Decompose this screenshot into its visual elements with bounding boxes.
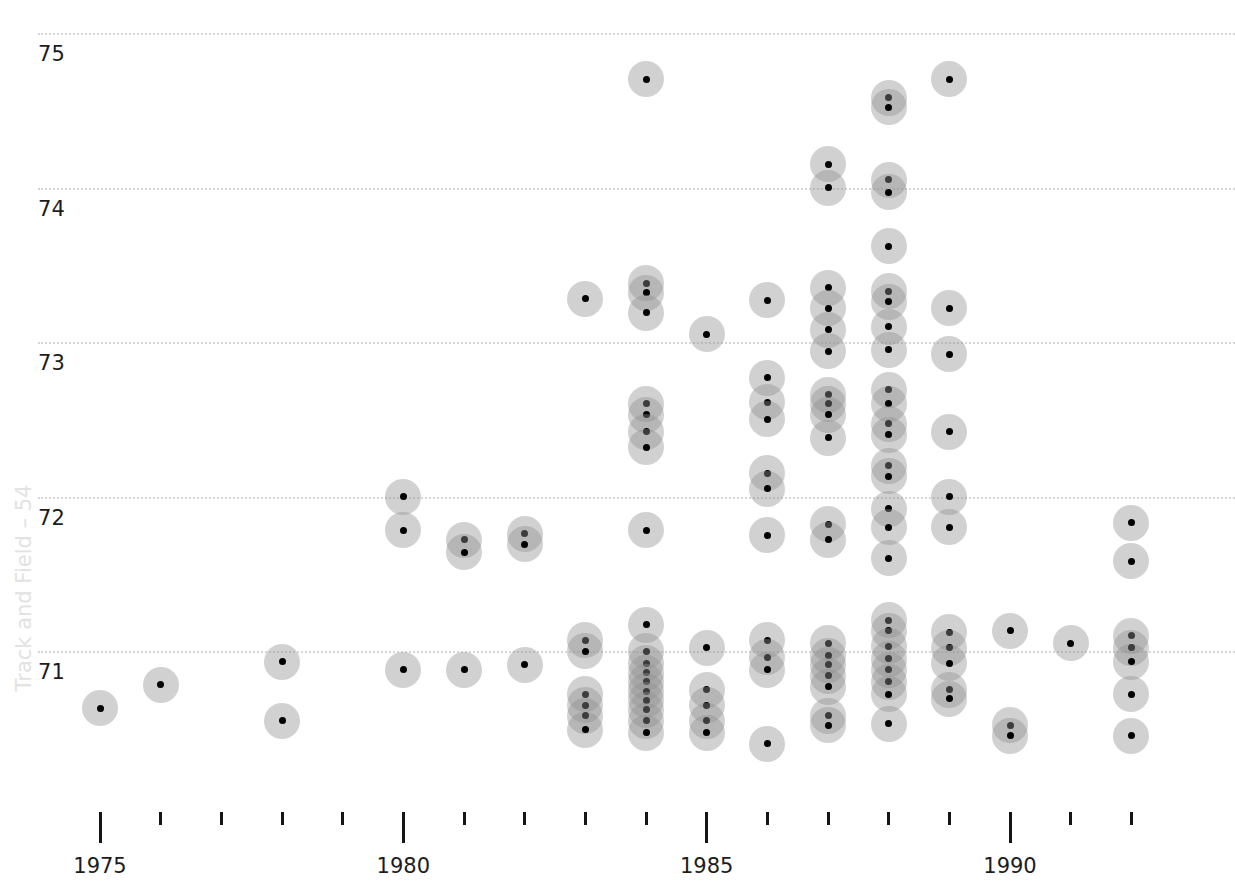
scatter-point-core — [825, 348, 832, 355]
y-axis-tick-label: 72 — [38, 506, 65, 530]
scatter-point — [1113, 676, 1149, 712]
scatter-point — [1113, 505, 1149, 541]
scatter-point — [871, 458, 907, 494]
x-axis-major-tick — [99, 812, 102, 843]
scatter-point — [810, 420, 846, 456]
scatter-point-core — [885, 189, 892, 196]
x-axis-minor-tick — [948, 812, 951, 825]
scatter-point — [1053, 625, 1089, 661]
scatter-point-core — [521, 541, 528, 548]
scatter-point-core — [946, 305, 953, 312]
gridline — [38, 342, 1235, 344]
scatter-point-core — [825, 536, 832, 543]
x-axis-tick-label: 1985 — [680, 854, 733, 878]
scatter-point-core — [885, 555, 892, 562]
scatter-point-core — [764, 666, 771, 673]
scatter-point — [931, 61, 967, 97]
gridline — [38, 497, 1235, 499]
scatter-point-core — [582, 726, 589, 733]
plot-area: 7574737271 — [0, 0, 1235, 893]
x-axis-minor-tick — [341, 812, 344, 825]
scatter-point-core — [946, 524, 953, 531]
scatter-point-core — [885, 720, 892, 727]
scatter-point — [1113, 718, 1149, 754]
scatter-point — [689, 630, 725, 666]
scatter-point — [871, 706, 907, 742]
x-axis-minor-tick — [584, 812, 587, 825]
scatter-point — [931, 681, 967, 717]
scatter-point — [628, 61, 664, 97]
x-axis-major-tick — [705, 812, 708, 843]
x-axis-minor-tick — [220, 812, 223, 825]
scatter-point-core — [703, 331, 710, 338]
scatter-point-core — [885, 104, 892, 111]
x-axis-minor-tick — [766, 812, 769, 825]
scatter-point-core — [521, 661, 528, 668]
scatter-point — [689, 715, 725, 751]
scatter-point-core — [279, 717, 286, 724]
scatter-point-core — [1128, 691, 1135, 698]
scatter-point-core — [643, 729, 650, 736]
scatter-point — [385, 652, 421, 688]
scatter-point-core — [825, 722, 832, 729]
scatter-point — [82, 690, 118, 726]
scatter-point — [749, 282, 785, 318]
scatter-point — [1113, 543, 1149, 579]
scatter-point — [143, 667, 179, 703]
scatter-point-core — [764, 297, 771, 304]
scatter-point-core — [885, 243, 892, 250]
x-axis-minor-tick — [523, 812, 526, 825]
x-axis-major-tick — [1009, 812, 1012, 843]
y-axis-tick-label: 75 — [38, 42, 65, 66]
scatter-point-core — [825, 305, 832, 312]
y-axis-tick-label: 73 — [38, 351, 65, 375]
x-axis-tick-label: 1980 — [377, 854, 430, 878]
scatter-point — [871, 540, 907, 576]
scatter-point-core — [1128, 519, 1135, 526]
scatter-point — [628, 295, 664, 331]
scatter-point — [446, 652, 482, 688]
scatter-point — [871, 89, 907, 125]
scatter-point — [689, 316, 725, 352]
scatter-point-core — [1007, 627, 1014, 634]
x-axis-minor-tick — [887, 812, 890, 825]
scatter-point — [567, 712, 603, 748]
scatter-point-core — [643, 309, 650, 316]
y-axis-tick-label: 71 — [38, 660, 65, 684]
x-axis-minor-tick — [645, 812, 648, 825]
scatter-point-core — [643, 444, 650, 451]
scatter-point — [810, 333, 846, 369]
scatter-point-core — [400, 666, 407, 673]
scatter-point — [810, 707, 846, 743]
scatter-point-core — [643, 76, 650, 83]
scatter-point — [749, 517, 785, 553]
scatter-point-core — [885, 298, 892, 305]
scatter-point-core — [946, 660, 953, 667]
scatter-point — [931, 509, 967, 545]
scatter-point-core — [461, 549, 468, 556]
y-axis-tick-label: 74 — [38, 197, 65, 221]
x-axis-minor-tick — [281, 812, 284, 825]
x-axis: 1975198019851990 — [0, 812, 1235, 893]
scatter-point — [749, 401, 785, 437]
scatter-point — [749, 726, 785, 762]
scatter-point-core — [825, 683, 832, 690]
scatter-point — [446, 534, 482, 570]
scatter-point — [264, 703, 300, 739]
scatter-point-core — [764, 740, 771, 747]
scatter-point-core — [279, 658, 286, 665]
scatter-point-core — [946, 351, 953, 358]
scatter-point-core — [1128, 558, 1135, 565]
scatter-point-core — [825, 434, 832, 441]
scatter-point-core — [1128, 658, 1135, 665]
scatter-point-core — [764, 374, 771, 381]
scatter-point-core — [400, 493, 407, 500]
scatter-point-core — [703, 729, 710, 736]
scatter-point — [871, 332, 907, 368]
scatter-point — [567, 633, 603, 669]
scatter-point — [385, 479, 421, 515]
scatter-point-core — [1067, 640, 1074, 647]
scatter-point-core — [946, 493, 953, 500]
scatter-point — [871, 228, 907, 264]
scatter-point — [931, 290, 967, 326]
